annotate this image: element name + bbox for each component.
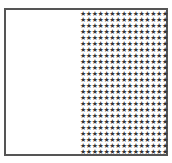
star-grid: ★★★★★★★★★★★★★★★★★★★★★★★★★★★★★★★★★★★★★★★★… [79, 10, 166, 154]
figure-frame: ★★★★★★★★★★★★★★★★★★★★★★★★★★★★★★★★★★★★★★★★… [4, 8, 168, 156]
star-icon: ★ [162, 149, 168, 155]
empty-region [6, 10, 79, 154]
